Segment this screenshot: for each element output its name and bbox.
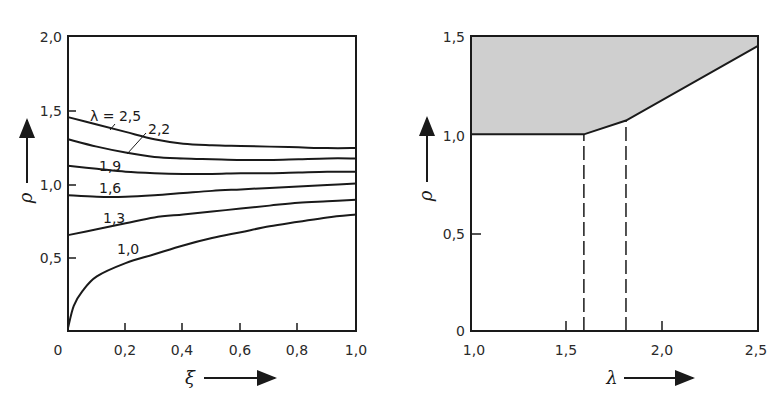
left-ytick-label: 0,5 (40, 250, 62, 266)
left-xtick-label: 0,8 (286, 342, 308, 358)
curve-label-1-9: 1,9 (99, 158, 121, 174)
right-xtick-label: 1,5 (555, 342, 577, 358)
shaded-region (471, 36, 758, 134)
left-yaxis-label: ρ (15, 192, 36, 204)
left-xtick-label: 0,6 (229, 342, 251, 358)
left-xaxis-label: ξ (185, 367, 196, 388)
right-yaxis-label: ρ (415, 190, 436, 202)
curve-label-1-6: 1,6 (99, 180, 121, 196)
figure: 0,5 1,0 1,5 2,0 0 0,2 0,4 0,6 0,8 1,0 ξ … (0, 0, 779, 403)
curve-label-1-3: 1,3 (103, 210, 125, 226)
left-ytick-label: 1,5 (40, 103, 62, 119)
left-chart: 0,5 1,0 1,5 2,0 0 0,2 0,4 0,6 0,8 1,0 ξ … (15, 29, 367, 388)
left-ytick-label: 1,0 (40, 177, 62, 193)
right-xtick-label: 2,5 (745, 342, 767, 358)
right-ytick-label: 0 (456, 323, 465, 339)
left-xtick-label: 1,0 (345, 342, 367, 358)
right-xtick-label: 2,0 (651, 342, 673, 358)
left-xtick-label: 0 (54, 342, 63, 358)
curve-line (68, 139, 356, 160)
curve-label-2-2: 2,2 (148, 121, 170, 137)
dashed-guides (584, 121, 626, 331)
right-xtick-label: 1,0 (463, 342, 485, 358)
left-xtick-label: 0,2 (114, 342, 136, 358)
curve-line (68, 214, 356, 328)
curve-label-1-0: 1,0 (117, 241, 139, 257)
right-ytick-label: 1,0 (443, 128, 465, 144)
right-ytick-label: 1,5 (443, 29, 465, 45)
curve-leader-line (127, 133, 146, 154)
right-ytick-label: 0,5 (443, 226, 465, 242)
left-xtick-label: 0,4 (171, 342, 193, 358)
right-xaxis-label: λ (605, 367, 617, 388)
curve-label-2-5: λ = 2,5 (90, 108, 141, 124)
left-ytick-label: 2,0 (40, 29, 62, 45)
right-chart: 0 0,5 1,0 1,5 1,0 1,5 2,0 2,5 λ ρ (415, 29, 767, 388)
